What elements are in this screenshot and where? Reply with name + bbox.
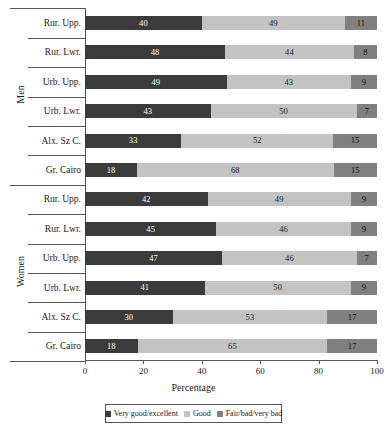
group-bracket-top xyxy=(10,8,86,9)
category-separator-line xyxy=(28,38,85,39)
bar-segment: 18 xyxy=(85,339,138,353)
bar-row: 43507 xyxy=(85,104,377,118)
x-axis-title: Percentage xyxy=(0,382,387,393)
group-title-women: Women xyxy=(15,241,26,301)
bar-value-label: 46 xyxy=(279,225,288,234)
bar-value-label: 11 xyxy=(357,19,365,28)
bar-value-label: 33 xyxy=(129,136,138,145)
bar-value-label: 49 xyxy=(275,195,284,204)
bar-segment: 17 xyxy=(327,339,377,353)
bar-value-label: 44 xyxy=(285,48,294,57)
legend-swatch-icon xyxy=(184,411,190,417)
category-separator-line xyxy=(28,332,85,333)
bar-segment: 9 xyxy=(351,192,377,206)
category-label: Alx. Sz C. xyxy=(6,310,85,324)
bar-value-label: 65 xyxy=(228,342,237,351)
bar-value-label: 30 xyxy=(124,313,133,322)
category-label: Rur. Upp. xyxy=(6,192,85,206)
bar-value-label: 50 xyxy=(279,107,288,116)
category-separator-line xyxy=(28,273,85,274)
group-divider-line xyxy=(10,185,85,186)
bar-segment: 49 xyxy=(202,16,345,30)
category-separator-line xyxy=(28,126,85,127)
bar-segment: 43 xyxy=(227,75,351,89)
bar-segment: 49 xyxy=(85,75,227,89)
category-label: Alx. Sz C. xyxy=(6,134,85,148)
bar-segment: 52 xyxy=(181,134,333,148)
x-tick-label: 0 xyxy=(70,366,100,376)
bar-value-label: 7 xyxy=(365,107,369,116)
bar-segment: 42 xyxy=(85,192,208,206)
bar-segment: 47 xyxy=(85,251,222,265)
category-label: Rur. Upp. xyxy=(6,16,85,30)
chart-legend: Very good/excellentGoodFair/bad/very bad xyxy=(105,404,282,423)
bar-row: 47467 xyxy=(85,251,377,265)
bar-value-label: 8 xyxy=(363,48,367,57)
x-tick-label: 80 xyxy=(304,366,334,376)
bar-value-label: 41 xyxy=(141,283,150,292)
legend-item: Fair/bad/very bad xyxy=(217,409,283,418)
bar-segment: 65 xyxy=(138,339,328,353)
legend-label: Fair/bad/very bad xyxy=(226,409,283,418)
bar-segment: 50 xyxy=(205,281,351,295)
stacked-bar-chart: 4049114844849439435073352151868154249945… xyxy=(0,0,387,437)
group-title-men: Men xyxy=(15,65,26,125)
bar-segment: 50 xyxy=(211,104,357,118)
legend-swatch-icon xyxy=(105,411,111,417)
bar-value-label: 50 xyxy=(273,283,282,292)
bar-segment: 17 xyxy=(327,310,377,324)
bar-value-label: 9 xyxy=(362,78,366,87)
x-axis-line xyxy=(85,360,377,361)
bar-row: 45469 xyxy=(85,222,377,236)
bar-row: 335215 xyxy=(85,134,377,148)
bar-row: 41509 xyxy=(85,281,377,295)
bar-segment: 9 xyxy=(351,222,377,236)
bar-value-label: 43 xyxy=(143,107,152,116)
x-tick-mark xyxy=(377,360,378,364)
bar-value-label: 68 xyxy=(231,166,240,175)
bar-value-label: 46 xyxy=(285,254,294,263)
legend-label: Very good/excellent xyxy=(114,409,178,418)
bar-row: 49439 xyxy=(85,75,377,89)
bar-value-label: 48 xyxy=(151,48,160,57)
bar-row: 186517 xyxy=(85,339,377,353)
legend-item: Good xyxy=(184,409,211,418)
x-tick-mark xyxy=(319,360,320,364)
category-separator-line xyxy=(28,214,85,215)
bar-segment: 7 xyxy=(357,104,377,118)
bar-value-label: 18 xyxy=(107,166,116,175)
legend-item: Very good/excellent xyxy=(105,409,178,418)
bar-segment: 46 xyxy=(222,251,356,265)
bar-value-label: 53 xyxy=(246,313,255,322)
bar-segment: 8 xyxy=(354,45,377,59)
category-separator-line xyxy=(28,67,85,68)
bar-value-label: 7 xyxy=(365,254,369,263)
x-tick-label: 60 xyxy=(245,366,275,376)
bar-value-label: 42 xyxy=(142,195,151,204)
bar-row: 404911 xyxy=(85,16,377,30)
bar-segment: 45 xyxy=(85,222,216,236)
bar-row: 42499 xyxy=(85,192,377,206)
bar-segment: 49 xyxy=(208,192,351,206)
bar-segment: 15 xyxy=(333,134,377,148)
x-tick-mark xyxy=(143,360,144,364)
legend-swatch-icon xyxy=(217,411,223,417)
category-label: Gr. Cairo xyxy=(6,163,85,177)
bar-segment: 44 xyxy=(225,45,353,59)
x-tick-label: 100 xyxy=(362,366,387,376)
bar-segment: 53 xyxy=(173,310,328,324)
bar-value-label: 17 xyxy=(348,342,357,351)
bar-segment: 68 xyxy=(137,163,334,177)
bar-value-label: 15 xyxy=(351,136,360,145)
legend-label: Good xyxy=(193,409,211,418)
bar-segment: 11 xyxy=(345,16,377,30)
bar-segment: 18 xyxy=(85,163,137,177)
category-separator-line xyxy=(28,244,85,245)
group-bracket-bottom xyxy=(10,361,86,362)
bar-value-label: 9 xyxy=(362,225,366,234)
bar-value-label: 43 xyxy=(284,78,293,87)
bar-segment: 46 xyxy=(216,222,350,236)
bar-segment: 33 xyxy=(85,134,181,148)
x-tick-label: 40 xyxy=(187,366,217,376)
bar-value-label: 47 xyxy=(149,254,158,263)
